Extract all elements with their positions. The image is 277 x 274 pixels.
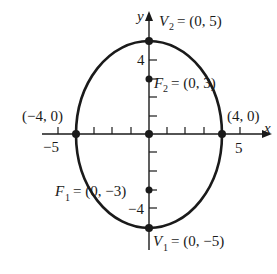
svg-text:1: 1 bbox=[163, 242, 168, 253]
svg-text:F: F bbox=[54, 183, 65, 199]
y-axis-arrow-icon bbox=[145, 11, 153, 21]
f2-label: F 2 = (0, 3) bbox=[153, 75, 216, 94]
y-tick-label-pos4: 4 bbox=[137, 52, 145, 68]
x-tick-label-pos5: 5 bbox=[235, 140, 243, 156]
vertex-v1-point bbox=[145, 224, 153, 232]
x-tick-label-neg5: −5 bbox=[43, 139, 59, 155]
y-axis-label: y bbox=[135, 8, 144, 24]
y-tick-label-neg4: −4 bbox=[128, 201, 144, 217]
svg-text:2: 2 bbox=[169, 21, 174, 32]
right-intercept-point bbox=[218, 130, 226, 138]
f1-label: F 1 = (0, −3) bbox=[54, 183, 126, 203]
svg-text:= (0, 3): = (0, 3) bbox=[171, 75, 216, 92]
vertex-v2-point bbox=[145, 37, 153, 45]
x-axis-label: x bbox=[263, 120, 271, 136]
svg-text:= (0, 5): = (0, 5) bbox=[177, 13, 222, 30]
svg-text:= (0, −5): = (0, −5) bbox=[171, 233, 224, 250]
right-intercept-label: (4, 0) bbox=[227, 108, 260, 125]
focus-f2-point bbox=[146, 76, 153, 83]
v2-label: V 2 = (0, 5) bbox=[159, 13, 222, 32]
left-intercept-point bbox=[72, 130, 80, 138]
svg-text:= (0, −3): = (0, −3) bbox=[73, 183, 126, 200]
ellipse-diagram: y x −5 5 4 −4 V 2 = (0, 5) F 2 = (0, 3) … bbox=[0, 0, 277, 274]
svg-text:1: 1 bbox=[65, 192, 70, 203]
focus-f1-point bbox=[146, 187, 153, 194]
svg-text:2: 2 bbox=[163, 83, 168, 94]
v1-label: V 1 = (0, −5) bbox=[153, 233, 224, 253]
center-point bbox=[145, 130, 153, 138]
left-intercept-label: (−4, 0) bbox=[22, 108, 63, 125]
